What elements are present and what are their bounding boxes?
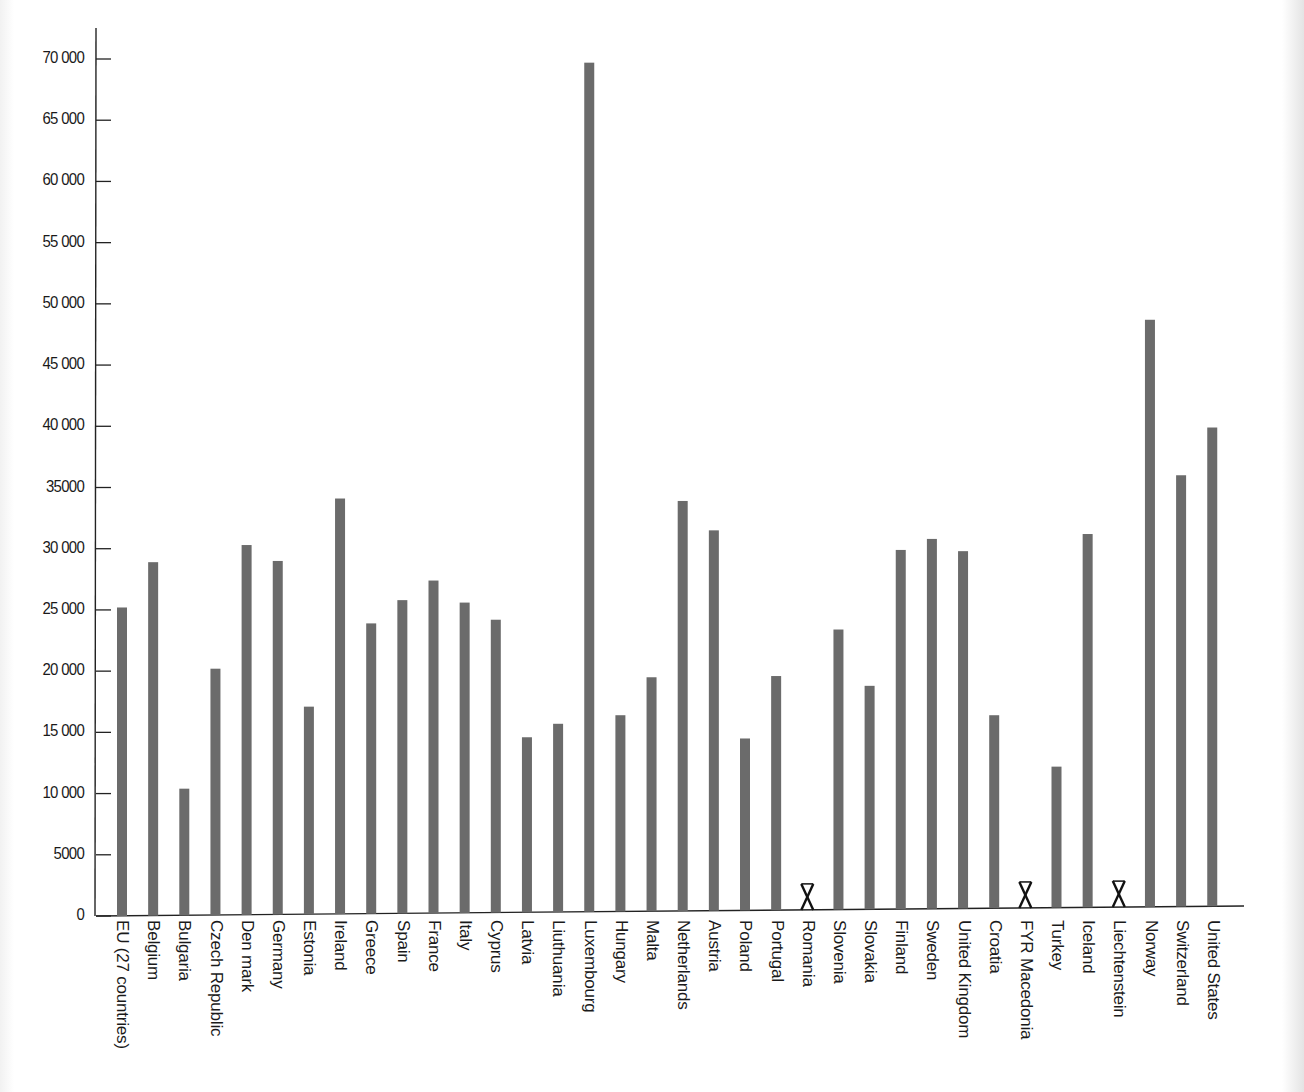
x-tick-label: Belgium [144,920,162,980]
x-tick-label: Norway [1142,920,1160,976]
x-tick-label: Austria [705,920,723,972]
x-tick-label: Czech Republic [207,920,225,1036]
bar-malta [647,677,657,911]
y-tick-label: 55 000 [5,233,84,251]
bar-liuthuania [553,724,563,912]
x-tick-label: Germany [269,920,287,989]
bar-switzerland [1176,475,1186,906]
bar-norway [1145,320,1155,907]
x-tick-label: United Kingdom [955,920,973,1038]
x-tick-label: Luxembourg [581,920,599,1013]
x-tick-label: Estonia [300,920,318,975]
x-tick-label: Netherlands [674,920,692,1009]
bar-luxembourg [584,63,594,912]
page-right-shadow [1282,0,1304,1092]
x-tick-label: France [425,920,443,972]
x-tick-label: Bulgaria [175,920,193,981]
x-tick-label: Finland [892,920,910,974]
x-tick-label: United States [1204,920,1222,1019]
x-tick-label: FYR Macedonia [1017,920,1035,1039]
y-axis-line [95,28,96,916]
x-tick-label: Switzerland [1173,920,1191,1006]
x-tick-label: Slovakia [861,920,879,983]
bar-czech-republic [210,669,220,915]
x-tick-label: Cyprus [487,920,505,973]
y-tick-label: 45 000 [5,355,84,373]
x-tick-label: Italy [456,920,474,950]
bar-croatia [989,715,999,908]
x-tick-label: Turkey [1048,920,1066,970]
bar-bulgaria [179,789,189,916]
bar-italy [460,603,470,913]
bar-united-kingdom [958,551,968,908]
bar-portugal [771,676,781,910]
bar-greece [366,623,376,913]
missing-data-x-icon [1113,881,1125,907]
bar-united-states [1207,428,1217,907]
y-tick-label: 70 000 [5,49,84,67]
y-tick-label: 65 000 [5,110,84,128]
x-tick-label: Romania [799,920,817,987]
y-tick-label: 30 000 [5,539,84,557]
x-tick-label: Liechtenstein [1110,920,1128,1018]
x-tick-label: Liuthuania [549,920,567,996]
bar-cyprus [491,620,501,913]
bar-chart: 0500010 00015 00020 00025 00030 00035000… [0,0,1304,1092]
bar-den-mark [242,545,252,915]
bar-eu-27-countries- [117,607,127,916]
y-tick-label: 60 000 [5,171,84,189]
x-tick-label: Spain [394,920,412,962]
bar-sweden [927,539,937,909]
bar-austria [709,530,719,910]
x-tick-label: Portugal [768,920,786,982]
x-tick-label: Sweden [923,920,941,980]
bar-finland [896,550,906,909]
y-tick-label: 35000 [5,478,84,496]
x-tick-label: EU (27 countries) [113,920,131,1049]
y-tick-label: 20 000 [5,661,84,679]
bar-slovenia [833,630,843,910]
bar-estonia [304,707,314,915]
bar-slovakia [865,686,875,909]
bar-hungary [615,715,625,911]
bar-spain [397,600,407,913]
y-tick-label: 50 000 [5,294,84,312]
x-tick-label: Iceland [1079,920,1097,973]
bar-turkey [1052,767,1062,908]
x-axis-line [96,906,1244,916]
x-tick-label: Latvia [518,920,536,964]
y-tick-label: 40 000 [5,416,84,434]
x-tick-label: Den mark [238,920,256,992]
y-tick-label: 5000 [5,845,84,863]
x-tick-label: Greece [362,920,380,975]
x-tick-label: Slovenia [830,920,848,984]
bar-germany [273,561,283,915]
missing-data-x-icon [1019,882,1031,908]
x-tick-label: Hungary [612,920,630,983]
x-tick-label: Malta [643,920,661,961]
bar-netherlands [678,501,688,911]
bar-latvia [522,737,532,912]
y-tick-label: 15 000 [5,722,84,740]
bar-iceland [1083,534,1093,907]
missing-data-x-icon [801,884,813,910]
x-tick-label: Ireland [331,920,349,971]
bar-belgium [148,562,158,916]
y-tick-label: 10 000 [5,784,84,802]
x-tick-label: Croatia [986,920,1004,973]
y-tick-label: 0 [5,906,84,924]
y-tick-label: 25 000 [5,600,84,618]
bar-ireland [335,499,345,915]
bar-france [429,581,439,914]
x-tick-label: Poland [736,920,754,972]
bar-poland [740,738,750,910]
